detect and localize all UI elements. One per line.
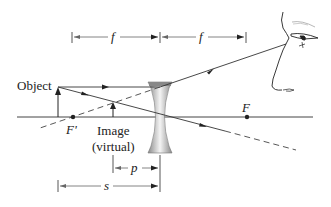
object-label: Object (17, 79, 52, 92)
f-dim-arrow-right (162, 35, 168, 39)
ray-central-arrowhead-2 (199, 123, 207, 127)
s-dim-arrow-left (60, 184, 66, 188)
image-label: Image (97, 124, 129, 137)
image-virtual-label: (virtual) (92, 140, 135, 153)
ray-parallel-arrowhead (102, 85, 109, 90)
ray-parallel-refracted (160, 44, 286, 87)
f-dim-arrow-left (74, 35, 80, 39)
p-label: p (131, 161, 138, 174)
p-dim-arrow-left (115, 166, 121, 170)
image-arrowhead (110, 102, 116, 109)
p-dim-arrow-right (151, 166, 158, 171)
f-left-label: f (111, 30, 115, 43)
f-dim-arrow-right-end (237, 35, 244, 40)
diagram-canvas (0, 0, 331, 207)
s-label: s (104, 179, 109, 192)
eye-profile-icon (272, 12, 318, 91)
focal-point-left (71, 115, 75, 119)
focal-point-right-label: F (242, 101, 250, 114)
ray-central-arrowhead (81, 92, 89, 96)
s-dim-arrow-right (151, 184, 158, 189)
focal-point-right (245, 115, 249, 119)
f-right-label: f (199, 30, 203, 43)
ray-central-dashed (225, 131, 296, 150)
f-dim-arrow-left-end (151, 35, 158, 40)
object-arrowhead (55, 87, 61, 95)
focal-point-left-label: F' (66, 123, 77, 136)
